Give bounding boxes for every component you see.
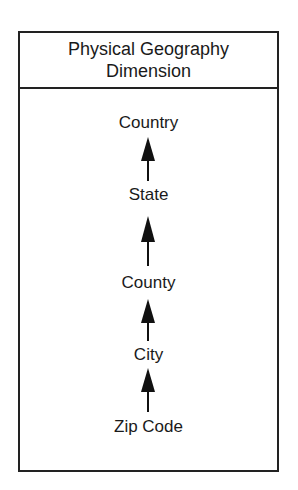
arrow-up-icon bbox=[140, 137, 156, 181]
level-country: Country bbox=[20, 113, 277, 133]
arrow-up-icon bbox=[140, 299, 156, 341]
level-state: State bbox=[20, 185, 277, 205]
dimension-header: Physical Geography Dimension bbox=[20, 33, 277, 89]
arrow-up-icon bbox=[140, 216, 156, 266]
level-city: City bbox=[20, 345, 277, 365]
title-line-1: Physical Geography bbox=[20, 38, 277, 60]
arrow-up-icon bbox=[140, 368, 156, 412]
level-zip-code: Zip Code bbox=[20, 417, 277, 437]
dimension-box: Physical Geography Dimension Country Sta… bbox=[18, 31, 279, 472]
title-line-2: Dimension bbox=[20, 60, 277, 82]
level-county: County bbox=[20, 273, 277, 293]
